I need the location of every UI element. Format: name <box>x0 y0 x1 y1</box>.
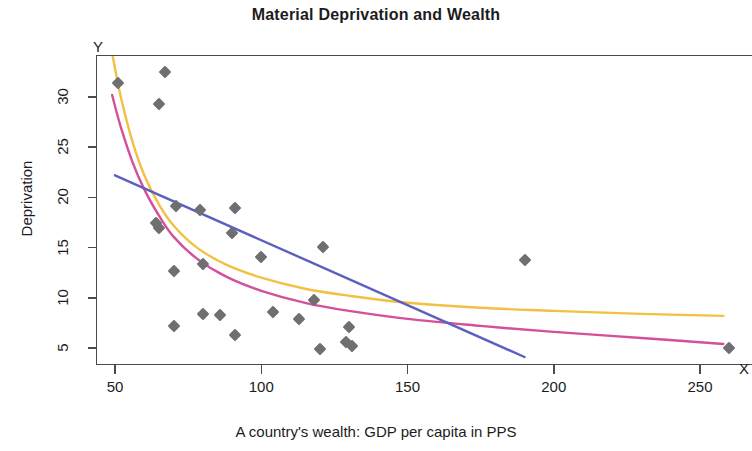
scatter-point <box>229 202 242 215</box>
scatter-point <box>267 305 280 318</box>
scatter-point <box>112 77 125 90</box>
scatter-point <box>313 343 326 356</box>
scatter-points <box>0 0 752 451</box>
scatter-point <box>723 342 736 355</box>
scatter-point <box>214 308 227 321</box>
scatter-point <box>226 226 239 239</box>
scatter-point <box>316 240 329 253</box>
scatter-point <box>167 264 180 277</box>
scatter-point <box>196 257 209 270</box>
chart-figure: Material Deprivation and Wealth Y X Depr… <box>0 0 752 451</box>
scatter-point <box>229 329 242 342</box>
scatter-point <box>343 321 356 334</box>
scatter-point <box>167 320 180 333</box>
scatter-point <box>170 200 183 213</box>
scatter-point <box>158 66 171 79</box>
scatter-point <box>255 250 268 263</box>
scatter-point <box>518 253 531 266</box>
scatter-point <box>196 307 209 320</box>
scatter-point <box>293 313 306 326</box>
scatter-point <box>308 293 321 306</box>
scatter-point <box>153 98 166 111</box>
scatter-point <box>193 204 206 217</box>
